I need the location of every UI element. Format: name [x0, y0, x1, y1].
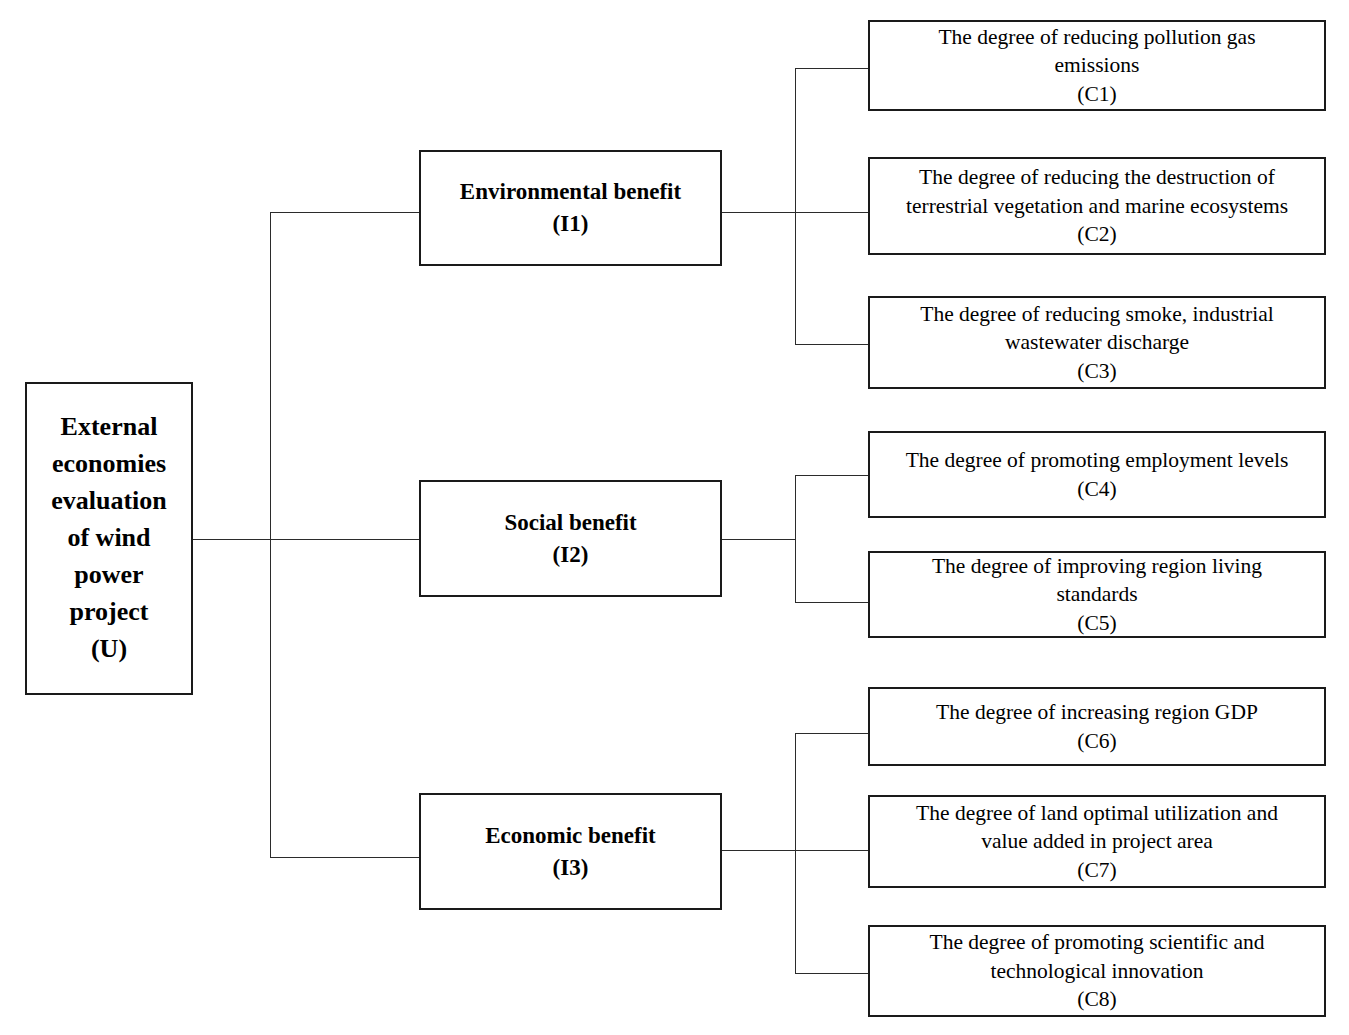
connector-root-to-i3: [270, 857, 419, 858]
connector-root-to-i2: [270, 539, 419, 540]
node-indicator-c2[interactable]: The degree of reducing the destruction o…: [868, 157, 1326, 255]
connector-i3-stub: [722, 850, 796, 851]
connector-i1-to-c2: [795, 212, 869, 213]
node-criteria-i3-label: Economic benefit (I3): [421, 820, 720, 883]
node-indicator-c8-label: The degree of promoting scientific and t…: [870, 928, 1324, 1014]
node-indicator-c1[interactable]: The degree of reducing pollution gas emi…: [868, 20, 1326, 111]
node-criteria-i2[interactable]: Social benefit (I2): [419, 480, 722, 597]
node-indicator-c5[interactable]: The degree of improving region living st…: [868, 551, 1326, 638]
node-indicator-c8[interactable]: The degree of promoting scientific and t…: [868, 925, 1326, 1017]
node-indicator-c1-label: The degree of reducing pollution gas emi…: [870, 23, 1324, 109]
connector-i3-trunk: [795, 733, 796, 973]
node-indicator-c4-label: The degree of promoting employment level…: [870, 446, 1324, 503]
connector-i2-trunk: [795, 475, 796, 603]
connector-i2-stub: [722, 539, 796, 540]
hierarchy-diagram: External economies evaluation of wind po…: [0, 0, 1349, 1035]
node-criteria-i1[interactable]: Environmental benefit (I1): [419, 150, 722, 266]
connector-i1-stub: [722, 212, 796, 213]
connector-root-to-i1: [270, 212, 419, 213]
node-indicator-c6-label: The degree of increasing region GDP (C6): [870, 698, 1324, 755]
connector-i1-to-c1: [795, 68, 869, 69]
node-indicator-c7-label: The degree of land optimal utilization a…: [870, 799, 1324, 885]
connector-i2-to-c5: [795, 602, 869, 603]
connector-i1-trunk: [795, 68, 796, 345]
node-indicator-c5-label: The degree of improving region living st…: [870, 552, 1324, 638]
node-indicator-c3-label: The degree of reducing smoke, industrial…: [870, 300, 1324, 386]
node-indicator-c6[interactable]: The degree of increasing region GDP (C6): [868, 687, 1326, 766]
node-criteria-i3[interactable]: Economic benefit (I3): [419, 793, 722, 910]
node-root-u-label: External economies evaluation of wind po…: [27, 409, 191, 667]
connector-i3-to-c8: [795, 973, 869, 974]
node-indicator-c4[interactable]: The degree of promoting employment level…: [868, 431, 1326, 518]
connector-root-stub: [193, 539, 271, 540]
connector-i1-to-c3: [795, 344, 869, 345]
node-indicator-c3[interactable]: The degree of reducing smoke, industrial…: [868, 296, 1326, 389]
connector-i2-to-c4: [795, 475, 869, 476]
connector-root-trunk: [270, 212, 271, 858]
node-criteria-i2-label: Social benefit (I2): [421, 507, 720, 570]
node-indicator-c7[interactable]: The degree of land optimal utilization a…: [868, 795, 1326, 888]
node-indicator-c2-label: The degree of reducing the destruction o…: [870, 163, 1324, 249]
node-criteria-i1-label: Environmental benefit (I1): [421, 176, 720, 239]
node-root-u[interactable]: External economies evaluation of wind po…: [25, 382, 193, 695]
connector-i3-to-c6: [795, 733, 869, 734]
connector-i3-to-c7: [795, 850, 869, 851]
